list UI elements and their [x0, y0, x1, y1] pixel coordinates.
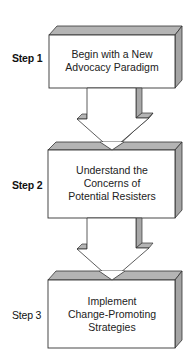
arrow-down-1: [77, 88, 153, 150]
step-3-text-line-2: Change-Promoting: [49, 308, 175, 321]
step-3-text-line-1: Implement: [49, 295, 175, 308]
step-2-text-line-2: Concerns of: [49, 177, 175, 190]
step-3-text: Implement Change-Promoting Strategies: [49, 295, 175, 334]
step-2-label: Step 2: [12, 179, 42, 191]
step-1-label: Step 1: [12, 52, 42, 64]
step-3-box-side-face: [175, 271, 182, 348]
step-2-box-side-face: [175, 142, 182, 218]
step-3-text-line-3: Strategies: [49, 321, 175, 334]
arrow-2-left-ledge: [77, 244, 87, 249]
step-2-text-line-1: Understand the: [49, 164, 175, 177]
arrow-1-left-ledge: [77, 114, 87, 119]
step-1-text-line-1: Begin with a New: [49, 48, 175, 61]
step-2-text: Understand the Concerns of Potential Res…: [49, 164, 175, 203]
step-1-box-top-face: [49, 26, 182, 35]
step-1-text-line-2: Advocacy Paradigm: [49, 61, 175, 74]
step-1-text: Begin with a New Advocacy Paradigm: [49, 48, 175, 74]
step-1-box-side-face: [175, 26, 182, 88]
step-2-text-line-3: Potential Resisters: [49, 190, 175, 203]
step-3-label: Step 3: [12, 309, 41, 321]
